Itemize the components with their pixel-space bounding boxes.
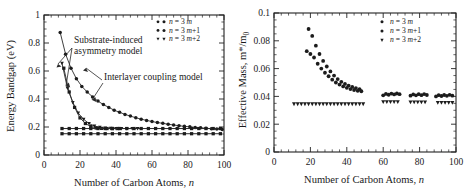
data-point — [332, 74, 336, 78]
data-point — [314, 102, 318, 106]
annotations-left: Substrate-induced asymmetry model Interl… — [57, 35, 204, 102]
data-point — [78, 116, 81, 119]
y-axis-title-left: Energy Bandgap (eV) — [5, 40, 17, 132]
data-point — [197, 127, 200, 130]
x-axis-title-left-main: Number of Carbon Atoms, — [74, 177, 189, 188]
data-point — [327, 74, 331, 78]
data-point — [350, 102, 354, 106]
data-point — [309, 52, 313, 56]
annotation-substrate-line1: Substrate-induced — [74, 35, 143, 45]
data-series — [436, 101, 455, 105]
data-point — [443, 101, 447, 105]
data-point — [330, 78, 334, 82]
data-point — [319, 67, 323, 71]
legend-marker — [380, 20, 383, 23]
data-point — [75, 132, 78, 135]
y-tick-label: 1 — [35, 10, 40, 20]
y-tick-label: 0.06 — [253, 64, 270, 74]
data-series — [434, 93, 454, 98]
data-series — [292, 102, 365, 106]
data-point — [398, 92, 402, 96]
data-point — [212, 132, 215, 135]
x-tick-label: 40 — [111, 160, 121, 170]
data-point — [343, 102, 347, 106]
data-point — [361, 102, 365, 106]
data-point — [82, 132, 85, 135]
data-point — [60, 132, 63, 135]
x-axis-title-left-text: Number of Carbon Atoms, n — [74, 177, 194, 188]
data-point — [316, 62, 320, 66]
data-point — [425, 93, 429, 97]
data-point — [96, 132, 99, 135]
data-point — [156, 121, 160, 125]
data-point — [132, 132, 135, 135]
data-point — [62, 67, 65, 70]
y-tick-labels-right: 00.020.040.060.080.1 — [253, 8, 270, 157]
data-point — [118, 127, 121, 130]
data-point — [176, 132, 179, 135]
data-point — [190, 127, 193, 130]
data-point — [58, 31, 62, 35]
data-point — [436, 101, 440, 105]
data-point — [332, 102, 336, 106]
x-tick-label: 0 — [42, 160, 47, 170]
data-point — [154, 132, 157, 135]
data-point — [139, 117, 143, 121]
y-tick-label: 0.2 — [28, 122, 40, 132]
data-point — [312, 56, 316, 60]
data-point — [75, 77, 79, 81]
data-point — [161, 132, 164, 135]
y-axis-title-right-main: Effective Mass, m*/m — [237, 35, 248, 128]
data-point — [140, 132, 143, 135]
data-point — [329, 69, 333, 73]
data-point — [352, 88, 356, 92]
y-axis-title-right-text: Effective Mass, m*/m0 — [237, 31, 251, 128]
data-point — [123, 113, 127, 117]
data-point — [219, 132, 222, 135]
y-axis-title-right-sub: 0 — [242, 31, 251, 35]
x-tick-label: 20 — [75, 160, 85, 170]
data-point — [172, 123, 176, 127]
data-point — [168, 127, 171, 130]
data-point — [132, 127, 135, 130]
x-tick-labels-right: 020406080100 — [272, 157, 464, 167]
data-point — [299, 102, 303, 106]
data-point — [310, 102, 314, 106]
data-point — [381, 100, 385, 104]
data-point — [129, 114, 133, 118]
data-point — [154, 127, 157, 130]
data-point — [354, 102, 358, 106]
data-point — [118, 132, 121, 135]
data-point — [183, 127, 186, 130]
data-point — [140, 127, 143, 130]
x-tick-label: 0 — [272, 157, 277, 167]
data-point — [318, 102, 322, 106]
legend-item: n = 3 m — [380, 17, 413, 26]
data-point — [439, 101, 443, 105]
data-point — [447, 101, 451, 105]
data-point — [339, 102, 343, 106]
y-tick-label: 0.1 — [258, 8, 270, 18]
data-series — [409, 92, 429, 97]
data-point — [423, 101, 427, 105]
data-point — [73, 106, 76, 109]
data-point — [307, 102, 311, 106]
legend-marker — [380, 29, 383, 32]
data-point — [303, 102, 307, 106]
data-point — [396, 100, 400, 104]
y-tick-label: 0.6 — [28, 66, 40, 76]
data-point — [204, 132, 207, 135]
data-point — [84, 122, 87, 125]
data-point — [334, 81, 338, 85]
data-point — [325, 65, 329, 69]
legend-marker — [162, 38, 165, 41]
x-tick-label: 40 — [342, 157, 352, 167]
data-point — [161, 127, 164, 130]
effective-mass-svg: Effective Mass, m*/m0 00.020.040.060.080… — [232, 0, 465, 194]
data-point — [325, 102, 329, 106]
data-point — [75, 127, 78, 130]
data-point — [107, 106, 111, 110]
legend-marker — [162, 20, 165, 23]
legend-label: n = 3 m — [390, 17, 414, 26]
data-point — [80, 85, 84, 89]
